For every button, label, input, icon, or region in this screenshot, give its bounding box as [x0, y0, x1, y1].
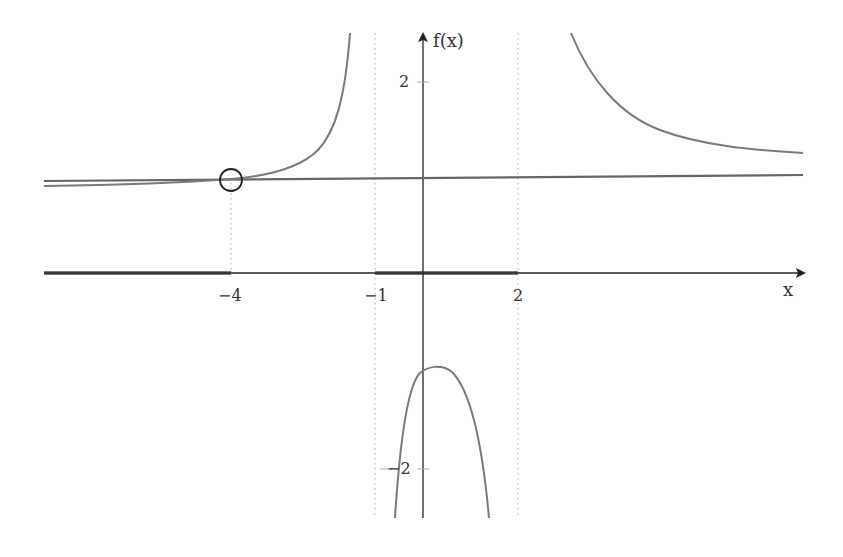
curve-middle-branch: [395, 367, 489, 518]
tick-label-y-minus2: −2: [387, 461, 411, 477]
function-plot: [0, 0, 843, 557]
y-axis-label: f(x): [433, 32, 464, 50]
ticks: [380, 82, 429, 469]
x-axis-label: x: [783, 281, 793, 299]
tick-label-x-2: 2: [513, 288, 523, 304]
tick-label-x-minus1: −1: [364, 288, 388, 304]
axes: [44, 40, 800, 518]
tick-label-y-2: 2: [399, 74, 409, 90]
curve-left-branch: [44, 33, 350, 186]
dotted-guides: [231, 33, 518, 518]
tick-label-x-minus4: −4: [218, 288, 242, 304]
curve-right-branch: [571, 33, 803, 153]
